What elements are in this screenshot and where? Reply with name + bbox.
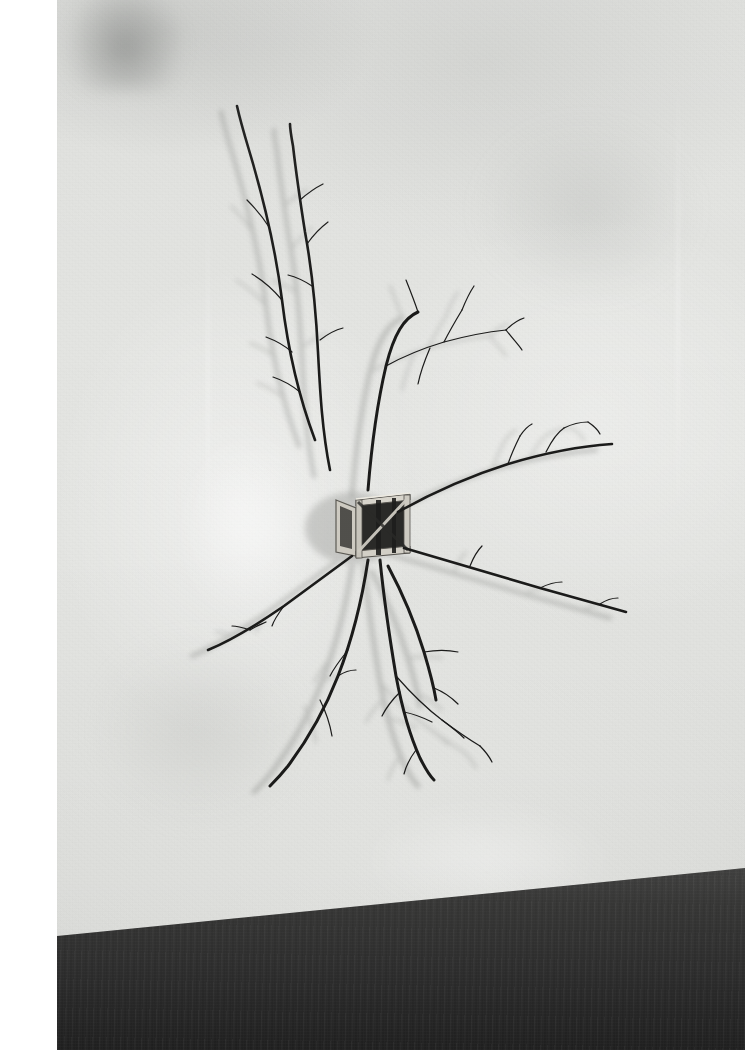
branch-fan-upper-right-4	[506, 318, 524, 330]
branch-right-lower-0	[404, 548, 626, 612]
branch-right-long-0	[398, 444, 612, 512]
branch-upper-mid-2	[300, 184, 323, 200]
branch-lower-center-right-4	[404, 712, 432, 722]
branch-fan-upper-right-1	[386, 330, 506, 366]
branch-upper-mid-1	[307, 222, 328, 244]
branch-right-long-3	[564, 422, 588, 428]
branch-lower-right-twig-1	[424, 651, 458, 653]
branch-left-lower-2	[232, 626, 250, 630]
print-left-margin	[0, 0, 57, 1050]
branch-lower-right-twig-0	[388, 566, 436, 700]
branch-right-lower-3	[600, 598, 618, 604]
branch-right-long-4	[588, 422, 600, 434]
branch-fan-upper-right-3	[462, 286, 474, 310]
branch-lower-right-twig-2	[434, 688, 458, 704]
branch-upper-mid-0	[290, 124, 330, 470]
branch-lower-center-right-6	[404, 750, 416, 774]
branch-right-lower-1	[470, 546, 482, 566]
branch-lower-center-right-0	[380, 560, 434, 780]
branch-lower-center-right-2	[442, 720, 464, 738]
photograph-image	[57, 0, 745, 1050]
branch-lower-center-right-1	[396, 676, 480, 746]
branch-lower-center-left-0	[270, 560, 368, 786]
branch-upper-left-0	[237, 106, 315, 440]
branch-fan-upper-right-6	[406, 280, 418, 312]
branch-upper-mid-3	[288, 275, 312, 286]
branch-right-long-5	[520, 424, 532, 436]
branch-upper-mid-4	[320, 328, 343, 340]
branch-lower-center-right-3	[382, 692, 400, 716]
photograph-page: A small open wooden crate frame is fixed…	[0, 0, 745, 1050]
branch-upper-left-1	[252, 274, 282, 300]
branch-left-lower-0	[208, 556, 352, 650]
branch-right-long-2	[546, 428, 564, 452]
branch-fan-upper-right-5	[506, 330, 522, 350]
branch-fan-upper-right-7	[418, 348, 430, 384]
branch-fan-upper-right-0	[368, 312, 418, 490]
branch-lower-center-right-5	[480, 746, 492, 762]
branch-fan-upper-right-2	[444, 310, 462, 342]
branch-right-lower-2	[540, 582, 562, 588]
